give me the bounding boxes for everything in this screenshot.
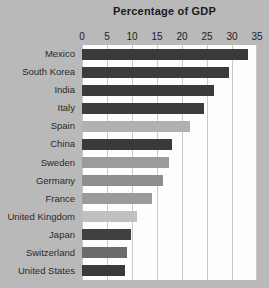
- bar: [82, 121, 190, 132]
- x-axis-tick-label: 5: [104, 30, 110, 43]
- bar-row: [82, 244, 257, 262]
- bar-row: [82, 190, 257, 208]
- x-axis-tick-label: 30: [226, 30, 237, 43]
- bar-row: [82, 45, 257, 63]
- bar: [82, 139, 172, 150]
- bar: [82, 193, 152, 204]
- bar: [82, 265, 125, 276]
- bar-row: [82, 208, 257, 226]
- category-label: Sweden: [41, 157, 75, 169]
- chart-title: Percentage of GDP: [60, 4, 269, 18]
- bar: [82, 157, 169, 168]
- bar-row: [82, 226, 257, 244]
- x-axis-tick-label: 15: [151, 30, 162, 43]
- bar-row: [82, 63, 257, 81]
- x-axis-tick-label: 20: [176, 30, 187, 43]
- category-label: Spain: [51, 120, 75, 132]
- bar-row: [82, 135, 257, 153]
- category-label: China: [50, 138, 75, 150]
- category-label: Japan: [49, 229, 75, 241]
- category-label: Germany: [36, 175, 75, 187]
- bar: [82, 85, 214, 96]
- bar-chart: Percentage of GDP 05101520253035 MexicoS…: [0, 0, 269, 288]
- bar: [82, 103, 204, 114]
- plot-area: [82, 45, 257, 280]
- bar-row: [82, 262, 257, 280]
- category-label: Switzerland: [26, 247, 75, 259]
- category-label: Mexico: [45, 48, 75, 60]
- bar: [82, 67, 229, 78]
- x-axis-tick-label: 35: [251, 30, 262, 43]
- category-label: United Kingdom: [7, 211, 75, 223]
- y-axis-category-labels: MexicoSouth KoreaIndiaItalySpainChinaSwe…: [0, 45, 79, 280]
- x-axis-tick-label: 10: [126, 30, 137, 43]
- bar-row: [82, 153, 257, 171]
- category-label: United States: [18, 265, 75, 277]
- bar-row: [82, 117, 257, 135]
- category-label: France: [45, 193, 75, 205]
- bar: [82, 175, 163, 186]
- bar: [82, 247, 127, 258]
- category-label: South Korea: [22, 66, 75, 78]
- bar-row: [82, 81, 257, 99]
- category-label: India: [54, 84, 75, 96]
- bar: [82, 211, 137, 222]
- x-axis-tick-labels: 05101520253035: [0, 30, 269, 44]
- bar-row: [82, 172, 257, 190]
- bars-layer: [82, 45, 257, 280]
- x-axis-tick-label: 25: [201, 30, 212, 43]
- category-label: Italy: [58, 102, 75, 114]
- bar-row: [82, 99, 257, 117]
- x-axis-tick-label: 0: [79, 30, 85, 43]
- bar: [82, 49, 248, 60]
- bar: [82, 229, 131, 240]
